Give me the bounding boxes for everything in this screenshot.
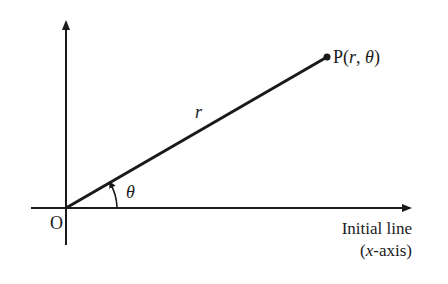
radius-line bbox=[66, 57, 327, 208]
x-axis-label-rest: -axis) bbox=[373, 241, 412, 260]
x-axis-label: (x-axis) bbox=[360, 241, 412, 260]
origin-label: O bbox=[50, 213, 63, 233]
angle-label: θ bbox=[126, 182, 135, 202]
point-label-suffix: ) bbox=[374, 47, 380, 68]
polar-diagram: O P(r, θ) r θ Initial line (x-axis) bbox=[0, 0, 448, 284]
initial-line-label: Initial line bbox=[342, 219, 412, 238]
point-p-dot bbox=[324, 54, 331, 61]
point-label-prefix: P( bbox=[333, 47, 349, 68]
angle-arc bbox=[110, 183, 117, 207]
point-label-sep: , bbox=[356, 47, 365, 67]
point-label: P(r, θ) bbox=[333, 47, 380, 68]
radius-label: r bbox=[195, 102, 203, 122]
point-label-theta: θ bbox=[365, 47, 374, 67]
